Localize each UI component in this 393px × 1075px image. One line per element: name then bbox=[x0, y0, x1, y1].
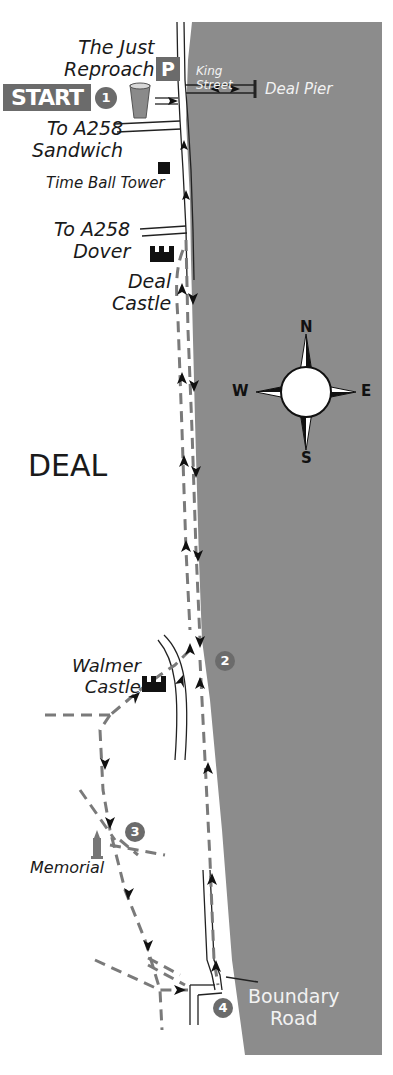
walmer-castle-label: Walmer Castle bbox=[72, 655, 141, 697]
boundary-road-line2: Road bbox=[248, 1007, 340, 1029]
waypoint-3-marker: 3 bbox=[125, 822, 145, 842]
pub-label-line1: The Just bbox=[64, 36, 155, 58]
memorial-label: Memorial bbox=[30, 858, 104, 877]
waypoint-4-marker: 4 bbox=[213, 998, 233, 1018]
walmer-castle-line2: Castle bbox=[72, 676, 141, 697]
compass-east: E bbox=[361, 382, 371, 400]
pub-label-line2: Reproach bbox=[64, 58, 155, 80]
deal-castle-icon bbox=[150, 246, 174, 262]
start-badge: START bbox=[3, 84, 91, 111]
a258-sandwich-label: To A258 Sandwich bbox=[32, 117, 123, 161]
boundary-road-label: Boundary Road bbox=[248, 985, 340, 1029]
king-street-label: King Street bbox=[196, 64, 233, 92]
a258-dover-line1: To A258 bbox=[54, 218, 130, 240]
king-street-line1: King bbox=[196, 64, 233, 78]
king-street-line2: Street bbox=[196, 78, 233, 92]
compass-west: W bbox=[232, 382, 249, 400]
compass-south: S bbox=[301, 449, 312, 467]
a258-sandwich-line2: Sandwich bbox=[32, 139, 123, 161]
map-canvas bbox=[0, 0, 393, 1075]
pub-glass-icon bbox=[130, 83, 150, 118]
start-step-marker: 1 bbox=[95, 87, 117, 109]
a258-sandwich-line1: To A258 bbox=[32, 117, 123, 139]
memorial-icon bbox=[91, 830, 103, 859]
sea-area bbox=[186, 22, 382, 1055]
deal-castle-label: Deal Castle bbox=[112, 270, 171, 314]
walk-map: The Just Reproach P START 1 King Street … bbox=[0, 0, 393, 1075]
a258-dover-label: To A258 Dover bbox=[54, 218, 130, 262]
walking-route bbox=[45, 240, 218, 1030]
deal-pier-label: Deal Pier bbox=[265, 80, 333, 98]
walmer-castle-line1: Walmer bbox=[72, 655, 141, 676]
time-ball-tower-label: Time Ball Tower bbox=[46, 174, 165, 192]
boundary-road-line1: Boundary bbox=[248, 985, 340, 1007]
deal-castle-line1: Deal bbox=[112, 270, 171, 292]
a258-dover-line2: Dover bbox=[54, 240, 130, 262]
waypoint-2-marker: 2 bbox=[215, 651, 235, 671]
deal-castle-line2: Castle bbox=[112, 292, 171, 314]
time-ball-tower-icon bbox=[158, 162, 170, 174]
pub-label: The Just Reproach bbox=[64, 36, 155, 80]
parking-badge: P bbox=[156, 57, 180, 81]
town-label: DEAL bbox=[28, 448, 107, 483]
compass-north: N bbox=[300, 318, 313, 336]
walmer-castle-icon bbox=[142, 676, 166, 692]
